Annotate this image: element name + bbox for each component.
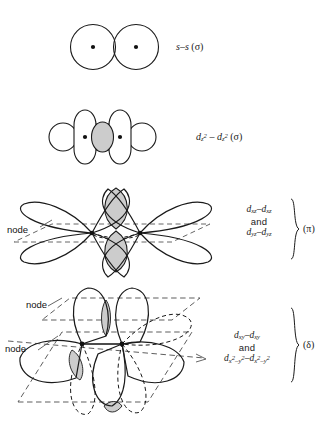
dxy-rear-lobe-upper-right (122, 314, 191, 345)
pi-overlap-region-top (105, 188, 128, 229)
node-label-delta-lower: node (5, 343, 26, 354)
label-and-delta: and (205, 342, 289, 354)
row-s-s-sigma: s–s (σ) (0, 0, 331, 95)
node-label-delta-upper: node (26, 299, 47, 310)
dxy-front-lobe-right (122, 342, 184, 383)
row-dxy-delta: node node dxy–dxy and dx2–y2–dx2–y2 (δ) (0, 280, 331, 421)
label-dyz-line: dyz–dyz (226, 227, 292, 239)
dxy-front-lobe-upper-right (116, 288, 149, 344)
orbital-overlap-figure: s–s (σ) dz2 – dz2 (σ) (0, 0, 331, 421)
node-leader-line-upper (48, 298, 62, 306)
node-label-pi: node (7, 224, 28, 235)
label-s-s-sigma-text: s–s (σ) (176, 41, 203, 52)
dz2-torus-right-outer (128, 123, 156, 151)
label-and-pi: and (226, 216, 292, 228)
nodal-plane-lower (18, 332, 192, 402)
node-label-pi-text: node (7, 224, 28, 235)
row-dz2-dz2-sigma: dz2 – dz2 (σ) (0, 95, 331, 180)
nucleus-dot-right (138, 231, 143, 236)
nucleus-dot-left (80, 342, 85, 347)
label-dx2y2-line: dx2–y2–dx2–y2 (205, 353, 289, 365)
node-label-delta-lower-text: node (5, 343, 26, 354)
dz2-dz2-overlap-diagram (0, 95, 200, 180)
label-dxy-dx2y2: dxy–dxy and dx2–y2–dx2–y2 (205, 330, 289, 365)
nucleus-dot-right (120, 342, 125, 347)
bond-type-pi: (π) (303, 223, 315, 234)
bond-type-pi-text: (π) (303, 223, 315, 234)
brace-pi (288, 198, 302, 260)
label-dxz-dyz: dxz–dxz and dyz–dyz (226, 204, 292, 239)
node-label-delta-upper-text: node (26, 299, 47, 310)
label-dz2-dz2-sigma: dz2 – dz2 (σ) (196, 131, 242, 143)
dxz-left-lobe-upper-left (21, 202, 92, 233)
dxz-dxz-overlap-diagram (0, 180, 230, 280)
nucleus-dot-right (134, 45, 138, 49)
bond-type-delta: (δ) (303, 339, 314, 350)
bond-type-delta-text: (δ) (303, 339, 314, 350)
dz2-overlap-region (92, 122, 114, 152)
label-dxz-line: dxz–dxz (226, 204, 292, 216)
row-dxz-dyz-pi: node dxz–dxz and dyz–dyz (π) (0, 180, 331, 280)
nodal-plane-upper (42, 298, 200, 320)
label-dxy-line: dxy–dxy (205, 330, 289, 342)
label-dz2-dz2-sigma-text: dz2 – dz2 (σ) (196, 131, 242, 142)
dxy-rear-lobe-lower-right (118, 344, 146, 413)
s-s-overlap-diagram (0, 0, 200, 95)
dxz-right-lobe-lower-right (140, 233, 211, 264)
label-s-s-sigma: s–s (σ) (176, 41, 203, 53)
nucleus-dot-left (90, 231, 95, 236)
nucleus-dot-left (91, 45, 95, 49)
nucleus-dot-left (83, 135, 87, 139)
delta-overlap-region-bottom (104, 402, 122, 413)
brace-delta (288, 307, 302, 383)
dz2-torus-left-outer (49, 123, 77, 151)
nucleus-dot-right (118, 135, 122, 139)
dxz-left-lobe-lower-left (21, 233, 92, 264)
